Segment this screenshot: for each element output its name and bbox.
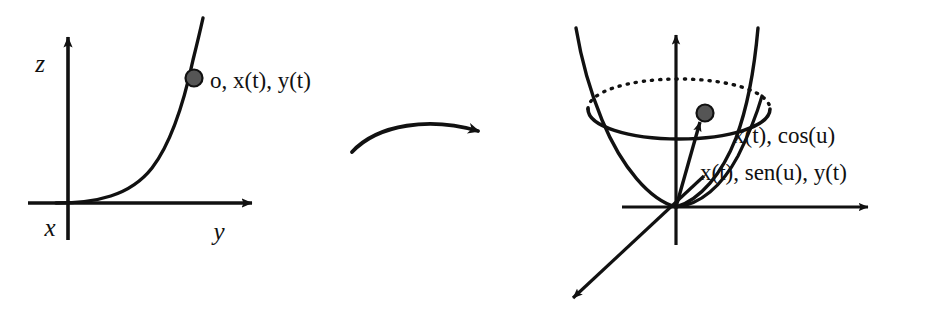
diagram-canvas: z y x o, x(t), y(t) (0, 0, 944, 318)
surface-point-label: x(t), sen(u), y(t) (700, 160, 847, 185)
rim-point-label: x(t), cos(u) (733, 123, 835, 148)
curve-point-marker (186, 70, 203, 87)
z-axis-label: z (34, 50, 45, 77)
x-axis-label: x (43, 214, 55, 241)
transform-arrow-group (352, 124, 478, 152)
revolution-arrow-icon (352, 124, 478, 152)
curve-point-label: o, x(t), y(t) (210, 68, 311, 93)
x-axis-line-3d (573, 176, 704, 298)
surface-point-marker (697, 105, 714, 122)
right-panel-group: x(t), cos(u) x(t), sen(u), y(t) (573, 28, 868, 298)
y-axis-label: y (210, 218, 225, 245)
profile-curve (56, 18, 203, 203)
left-panel-group: z y x o, x(t), y(t) (28, 18, 311, 245)
figure-root: z y x o, x(t), y(t) (0, 0, 944, 318)
rim-ellipse-back-dotted (588, 79, 770, 109)
